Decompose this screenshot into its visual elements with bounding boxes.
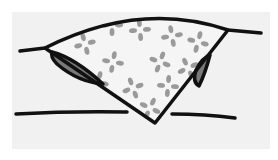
cross-section-diagram	[0, 0, 278, 160]
diagram-canvas	[0, 0, 278, 160]
